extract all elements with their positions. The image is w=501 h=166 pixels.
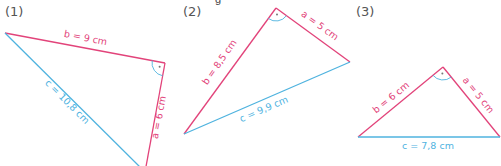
right-angle-dot bbox=[276, 13, 278, 15]
triangle-2: a = 5 cmb = 8,5 cmc = 9,9 cm bbox=[184, 8, 350, 134]
triangles-diagram: g b = 9 cma = 6 cmc = 10,8 cma = 5 cmb =… bbox=[0, 0, 501, 166]
figure-label: (1) bbox=[5, 4, 23, 19]
triangle-1: b = 9 cma = 6 cmc = 10,8 cm bbox=[5, 28, 168, 166]
side-label-a: a = 6 cm bbox=[149, 95, 168, 140]
right-angle-dot bbox=[159, 66, 161, 68]
side-label-b: b = 8,5 cm bbox=[200, 37, 239, 86]
triangles-canvas: b = 9 cma = 6 cmc = 10,8 cma = 5 cmb = 8… bbox=[0, 0, 501, 166]
figure-label: (2) bbox=[183, 4, 201, 19]
right-angle-dot bbox=[441, 72, 443, 74]
triangle-3: a = 5 cmb = 6 cmc = 7,8 cm bbox=[358, 67, 500, 151]
side-b bbox=[358, 67, 443, 137]
right-angle-arc bbox=[268, 16, 286, 21]
side-c bbox=[5, 33, 145, 166]
side-label-c: c = 10,8 cm bbox=[43, 77, 92, 126]
side-label-b: b = 9 cm bbox=[63, 28, 108, 47]
right-angle-arc bbox=[433, 75, 451, 80]
side-label-c: c = 7,8 cm bbox=[402, 140, 454, 151]
side-label-c: c = 9,9 cm bbox=[238, 94, 290, 124]
figure-label: (3) bbox=[356, 4, 374, 19]
cut-off-title: g bbox=[215, 0, 221, 5]
side-label-a: a = 5 cm bbox=[299, 8, 341, 42]
